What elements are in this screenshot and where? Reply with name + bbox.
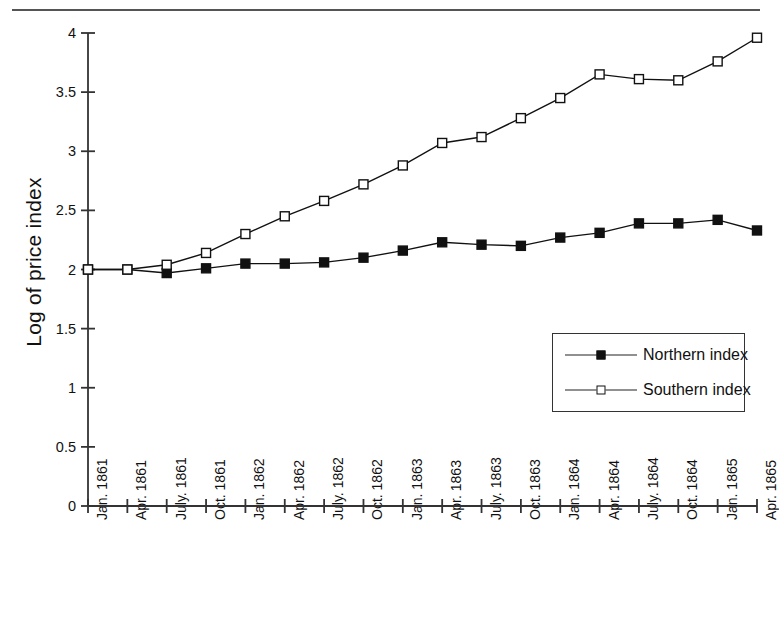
legend-item-northern: Northern index <box>553 339 744 371</box>
filled-square-icon <box>565 347 637 363</box>
legend-label-southern: Southern index <box>643 381 751 399</box>
open-square-icon <box>565 382 637 398</box>
legend-item-southern: Southern index <box>553 374 744 406</box>
chart-legend: Northern index Southern index <box>552 333 745 412</box>
legend-label-northern: Northern index <box>643 346 748 364</box>
